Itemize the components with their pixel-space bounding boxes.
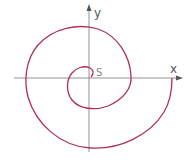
- start-label: S: [96, 67, 102, 78]
- y-axis-label: y: [94, 6, 101, 20]
- x-axis-label: x: [170, 62, 177, 76]
- spiral-curve: [26, 27, 172, 149]
- spiral-diagram: y x S: [0, 0, 185, 164]
- x-axis-arrow-icon: [176, 76, 183, 81]
- axes: [14, 4, 183, 152]
- y-axis-arrow-icon: [87, 4, 92, 11]
